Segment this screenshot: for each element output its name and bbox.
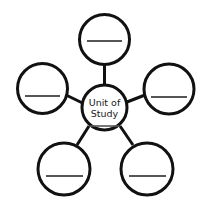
node-right-circle[interactable]: [144, 64, 194, 114]
node-top-circle[interactable]: [80, 15, 130, 65]
node-right[interactable]: [144, 64, 194, 114]
node-left[interactable]: [18, 64, 68, 114]
center-node-label-line2: Study: [91, 108, 119, 119]
diagram-canvas: Unit of Study: [0, 0, 213, 213]
node-bottom-left-circle[interactable]: [38, 143, 90, 195]
node-top[interactable]: [80, 15, 130, 65]
spoke-center-left: [66, 95, 83, 103]
node-bottom-right[interactable]: [121, 143, 173, 195]
node-bottom-right-circle[interactable]: [121, 143, 173, 195]
spoke-center-right: [127, 95, 145, 102]
center-node[interactable]: Unit of Study: [82, 85, 127, 130]
center-node-label-line1: Unit of: [89, 97, 121, 108]
concept-web-diagram: Unit of Study: [0, 0, 213, 213]
node-left-circle[interactable]: [18, 64, 68, 114]
node-bottom-left[interactable]: [38, 143, 90, 195]
spoke-center-bottom-right: [120, 126, 133, 145]
spoke-center-bottom-left: [77, 126, 89, 145]
